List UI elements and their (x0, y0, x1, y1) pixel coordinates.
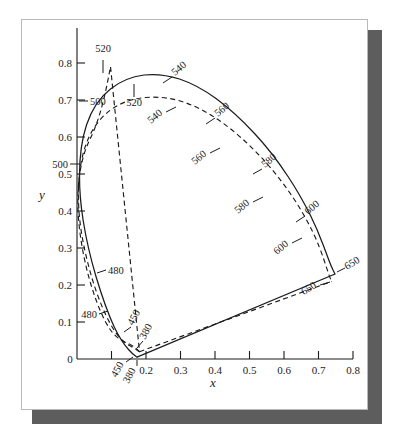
wavelength-marker-500-dashed: 500 (52, 159, 80, 170)
wavelength-marker-520-dashed: 520 (126, 84, 142, 108)
wavelength-marker-540-dashed: 540 (145, 107, 176, 126)
wavelength-label: 540 (169, 59, 188, 78)
y-tick-labels: 0.1 0.2 0.3 0.4 0.5 0.6 0.7 0.8 (58, 57, 72, 328)
y-tick-label: 0.1 (58, 316, 72, 328)
wavelength-marker-480-dashed: 480 (97, 265, 124, 276)
x-tick-label: 0.6 (277, 364, 291, 376)
wavelength-label: 380 (137, 322, 154, 341)
x-axis-label: x (209, 375, 216, 390)
wavelength-label: 580 (259, 151, 278, 170)
figure-root: 0 0.2 0.3 0.4 0.5 0.6 0.7 0.8 0.1 0.2 0.… (0, 0, 398, 440)
wavelength-label: 500 (90, 96, 106, 107)
wavelength-label: 450 (125, 308, 142, 327)
y-tick-label: 0.6 (58, 131, 72, 143)
wavelength-marker-520-solid: 520 (95, 43, 111, 73)
wavelength-marker-600-solid: 600 (296, 198, 321, 222)
wavelength-label: 540 (145, 107, 164, 126)
y-axis-label: y (37, 187, 45, 202)
y-tick-label: 0.4 (58, 205, 72, 217)
y-tick-label: 0.7 (58, 94, 72, 106)
x-tick-label: 0.8 (346, 364, 360, 376)
wavelength-marker-500-solid: 500 (79, 96, 106, 107)
wavelength-marker-600-dashed: 600 (271, 238, 302, 257)
x-tick-label: 0.3 (174, 364, 188, 376)
y-tick-label: 0.8 (58, 57, 72, 69)
y-tick-label: 0.2 (58, 279, 72, 291)
wavelength-marker-580-dashed: 580 (232, 197, 263, 216)
wavelength-label: 560 (212, 100, 231, 119)
wavelength-label: 560 (189, 148, 208, 167)
chromaticity-diagram: 0 0.2 0.3 0.4 0.5 0.6 0.7 0.8 0.1 0.2 0.… (0, 0, 398, 440)
wavelength-label: 480 (108, 265, 124, 276)
wavelength-label: 520 (126, 97, 142, 108)
wavelength-marker-560-dashed: 560 (189, 148, 220, 167)
x-tick-label: 0.7 (312, 364, 326, 376)
x-tick-label: 0.5 (243, 364, 257, 376)
wavelength-marker-380-dashed: 380 (137, 322, 154, 348)
wavelength-marker-450-dashed: 450 (124, 308, 142, 332)
wavelength-marker-540-solid: 540 (163, 59, 188, 83)
x-tick-label: 0.2 (139, 364, 153, 376)
wavelength-label: 650 (342, 254, 361, 272)
wavelength-label: 520 (95, 43, 111, 54)
axes (77, 28, 353, 359)
wavelength-marker-650-solid: 650 (337, 254, 361, 272)
wavelength-label: 500 (52, 159, 68, 170)
dashed-observer-curve (78, 97, 331, 352)
x-tick-label: 0 (67, 353, 73, 365)
wavelength-label: 580 (232, 197, 251, 216)
wavelength-label: 600 (271, 238, 290, 257)
wavelength-label: 480 (81, 309, 97, 320)
wavelength-marker-580-solid: 580 (253, 151, 278, 174)
y-tick-label: 0.3 (58, 242, 72, 254)
wavelength-label: 600 (302, 198, 321, 217)
solid-observer-curve (80, 74, 336, 357)
